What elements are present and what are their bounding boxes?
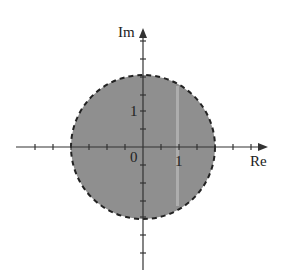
real-tick-label-1: 1	[175, 153, 183, 169]
complex-plane-diagram: Im Re 0 1 1	[0, 0, 286, 280]
real-axis-arrow-icon	[258, 143, 268, 151]
real-axis-label: Re	[250, 153, 267, 169]
origin-label: 0	[130, 149, 138, 165]
imaginary-axis-label: Im	[118, 24, 135, 40]
imaginary-axis-arrow-icon	[139, 28, 147, 38]
imaginary-tick-label-1: 1	[130, 103, 138, 119]
